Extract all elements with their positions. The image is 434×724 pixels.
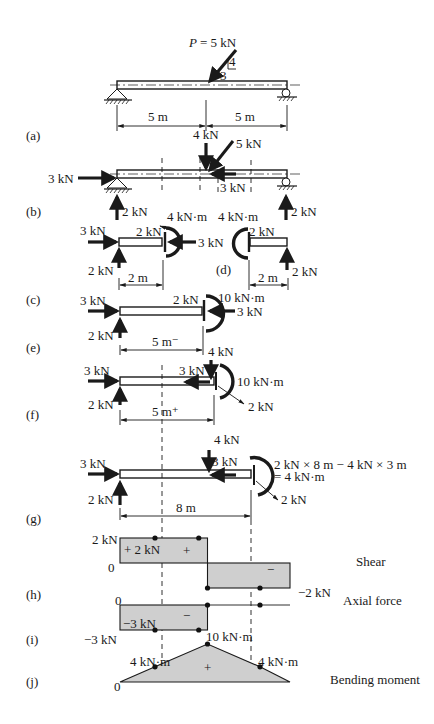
axial-data-point bbox=[196, 627, 201, 632]
section-force: 2 kN bbox=[281, 492, 307, 507]
axial-data-point bbox=[257, 602, 262, 607]
slope-rise: 4 bbox=[229, 54, 236, 69]
panel-b-free-body: 3 kN 4 kN 5 kN 3 kN 2 kN 2 kN bbox=[48, 127, 317, 220]
axial-left: 3 kN bbox=[80, 223, 106, 238]
horizontal-load: 3 kN bbox=[179, 363, 205, 378]
moment: 4 kN·m bbox=[218, 209, 258, 224]
pin-support-icon bbox=[104, 89, 132, 104]
moment-right-value: 4 kN·m bbox=[258, 654, 298, 669]
moment-line-2: = 4 kN·m bbox=[274, 469, 325, 484]
panel-label-b: (b) bbox=[26, 204, 41, 219]
axial-inner-value: −3 kN bbox=[123, 616, 157, 631]
panel-a-beam: P= 5 kN 4 3 5 m 5 m bbox=[104, 35, 300, 131]
inclined-load-arrow bbox=[210, 141, 233, 170]
axial-left: 3 kN bbox=[84, 363, 110, 378]
axial-data-point bbox=[205, 602, 210, 607]
reaction: 2 kN bbox=[88, 328, 114, 343]
panel-label-f: (f) bbox=[26, 407, 39, 422]
moment-pos-sign: + bbox=[204, 660, 211, 675]
vertical-load: 4 kN bbox=[208, 344, 234, 359]
shear-data-point bbox=[205, 585, 210, 590]
panel-label-c: (c) bbox=[26, 292, 40, 307]
panel-label-a: (a) bbox=[26, 128, 40, 143]
moment: 4 kN·m bbox=[167, 209, 207, 224]
shear: 2 kN bbox=[173, 292, 199, 307]
bending-moment-diagram: 10 kN·m 4 kN·m 4 kN·m + 0 Bending moment bbox=[114, 629, 420, 694]
panel-label-g: (g) bbox=[26, 511, 41, 526]
beam-segment bbox=[119, 238, 162, 246]
shear: 2 kN bbox=[136, 224, 162, 239]
panel-f-free-body: 3 kN 2 kN 4 kN 3 kN 10 kN·m 2 kN 5 m⁺ bbox=[84, 344, 284, 425]
panel-label-j: (j) bbox=[26, 674, 38, 689]
moment-zero: 0 bbox=[114, 679, 121, 694]
axial-right: 3 kN bbox=[237, 304, 263, 319]
panel-label-i: (i) bbox=[26, 632, 38, 647]
moment-data-point bbox=[257, 664, 262, 669]
shear: 2 kN bbox=[249, 224, 275, 239]
shear-top-value: 2 kN bbox=[92, 532, 118, 547]
moment: 10 kN·m bbox=[237, 374, 284, 389]
shear-pos-sign: + bbox=[183, 543, 190, 558]
shear-diagram: 2 kN 0 + 2 kN + − −2 kN Shear bbox=[92, 532, 386, 600]
shear-inner-value: + 2 kN bbox=[124, 542, 161, 557]
moment: 10 kN·m bbox=[218, 290, 265, 305]
section-force: 2 kN bbox=[248, 399, 274, 414]
moment-arc bbox=[220, 365, 233, 398]
shear-moment-diagram-figure: (a) (b) (c) (d) (e) (f) (g) (h) (i) (j) … bbox=[0, 0, 434, 724]
length: 2 m bbox=[128, 270, 148, 285]
shear-title: Shear bbox=[356, 554, 386, 569]
panel-d-free-body: 2 kN 4 kN·m 2 kN 2 m bbox=[218, 209, 318, 290]
load-label: P= 5 kN bbox=[188, 35, 237, 50]
length: 2 m bbox=[258, 270, 278, 285]
reaction: 2 kN bbox=[88, 263, 114, 278]
axial-neg-sign: − bbox=[183, 608, 190, 623]
horizontal-load: 3 kN bbox=[212, 454, 238, 469]
roller-support-icon bbox=[277, 89, 297, 101]
span-left: 5 m bbox=[148, 109, 168, 124]
span-right: 5 m bbox=[235, 109, 255, 124]
length: 5 m⁻ bbox=[152, 334, 179, 349]
moment-title: Bending moment bbox=[330, 672, 420, 687]
moment-left-value: 4 kN·m bbox=[130, 654, 170, 669]
pin-support-icon bbox=[104, 178, 132, 193]
moment-peak-value: 10 kN·m bbox=[206, 629, 253, 644]
panel-e-free-body: 3 kN 2 kN 2 kN 10 kN·m 3 kN 5 m⁻ bbox=[80, 290, 265, 355]
beam-segment bbox=[250, 238, 287, 246]
shear-zero: 0 bbox=[108, 560, 115, 575]
panel-label-h: (h) bbox=[26, 587, 41, 602]
horizontal-reaction: 3 kN bbox=[48, 171, 74, 186]
panel-label-d: (d) bbox=[216, 262, 231, 277]
panel-c-free-body: 3 kN 2 kN 2 kN 4 kN·m 3 kN 2 m bbox=[80, 209, 224, 290]
slope-run: 3 bbox=[220, 68, 227, 83]
panel-g-free-body: 3 kN 2 kN 4 kN 3 kN 2 kN × 8 m − 4 kN × … bbox=[80, 432, 407, 520]
left-reaction: 2 kN bbox=[122, 204, 148, 219]
moment-data-point bbox=[205, 641, 210, 646]
panel-label-e: (e) bbox=[26, 340, 40, 355]
vertical-load: 4 kN bbox=[214, 432, 240, 447]
axial-left: 3 kN bbox=[80, 293, 106, 308]
moment-arc bbox=[234, 229, 248, 258]
vertical-component: 4 kN bbox=[193, 127, 219, 142]
axial-left: 3 kN bbox=[80, 456, 106, 471]
length: 5 m⁺ bbox=[152, 404, 179, 419]
reaction: 2 kN bbox=[88, 492, 114, 507]
axial-right: 3 kN bbox=[198, 235, 224, 250]
axial-zero: 0 bbox=[115, 593, 122, 608]
shear-negative-region bbox=[208, 563, 291, 588]
inclined-load: 5 kN bbox=[236, 136, 262, 151]
roller-support-icon bbox=[277, 178, 297, 190]
axial-title: Axial force bbox=[343, 593, 402, 608]
horizontal-component: 3 kN bbox=[220, 180, 246, 195]
moment-data-point bbox=[152, 664, 157, 669]
shear-data-point bbox=[196, 535, 201, 540]
shear-data-point bbox=[257, 585, 262, 590]
axial-data-point bbox=[152, 627, 157, 632]
right-reaction: 2 kN bbox=[291, 204, 317, 219]
shear-neg-sign: − bbox=[267, 562, 274, 577]
shear-bottom-value: −2 kN bbox=[298, 585, 332, 600]
axial-bottom-value: −3 kN bbox=[84, 632, 118, 647]
length: 8 m bbox=[176, 500, 196, 515]
reaction: 2 kN bbox=[88, 397, 114, 412]
beam-segment bbox=[120, 307, 202, 315]
shear-data-point bbox=[152, 535, 157, 540]
